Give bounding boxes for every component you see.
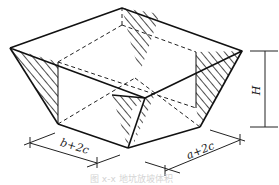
hatch-back <box>122 8 160 72</box>
corner-slope-hatches <box>10 8 242 148</box>
figure-caption: 图 x-x 地坑放坡体积 <box>90 172 173 185</box>
frustum-diagram <box>0 0 279 185</box>
dimension-lines <box>24 51 278 176</box>
height-label: H <box>250 86 263 96</box>
